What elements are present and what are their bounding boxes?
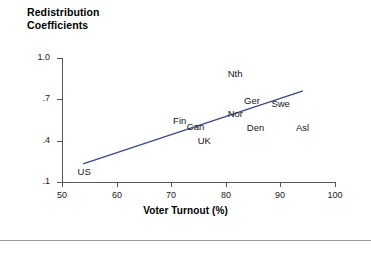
y-tick-label: .1 — [24, 176, 50, 186]
x-tick-label: 80 — [211, 190, 241, 200]
y-tick-mark — [57, 58, 62, 59]
chart-figure: RedistributionCoefficients 1.0.7.4.1 506… — [0, 0, 371, 256]
data-point-label-can: Can — [187, 122, 204, 132]
x-tick-label: 100 — [320, 190, 350, 200]
x-tick-label: 50 — [47, 190, 77, 200]
x-tick-label: 70 — [156, 190, 186, 200]
x-tick-label: 60 — [102, 190, 132, 200]
data-point-label-us: US — [78, 167, 91, 177]
data-point-label-asl: Asl — [296, 123, 309, 133]
x-tick-mark — [171, 182, 172, 187]
x-tick-mark — [62, 182, 63, 187]
y-axis-line — [62, 58, 63, 183]
y-tick-label: 1.0 — [24, 52, 50, 62]
x-axis-line — [62, 182, 335, 183]
data-point-label-fin: Fin — [173, 116, 186, 126]
data-point-label-ger: Ger — [244, 96, 260, 106]
bottom-divider — [0, 240, 371, 241]
y-tick-mark — [57, 141, 62, 142]
trendline-layer — [0, 0, 371, 256]
data-point-label-nth: Nth — [228, 69, 243, 79]
x-tick-mark — [117, 182, 118, 187]
x-tick-mark — [226, 182, 227, 187]
y-tick-mark — [57, 99, 62, 100]
data-point-label-den: Den — [247, 123, 264, 133]
chart-title: RedistributionCoefficients — [27, 6, 100, 32]
x-tick-label: 90 — [265, 190, 295, 200]
chart-title-line-1: Redistribution — [27, 6, 100, 18]
x-tick-mark — [280, 182, 281, 187]
data-point-label-uk: UK — [198, 136, 211, 146]
y-tick-label: .7 — [24, 93, 50, 103]
data-point-label-swe: Swe — [271, 99, 289, 109]
chart-title-line-2: Coefficients — [27, 19, 100, 32]
x-axis-title: Voter Turnout (%) — [0, 205, 371, 216]
y-tick-label: .4 — [24, 135, 50, 145]
data-point-label-nor: Nor — [228, 109, 243, 119]
x-tick-mark — [335, 182, 336, 187]
